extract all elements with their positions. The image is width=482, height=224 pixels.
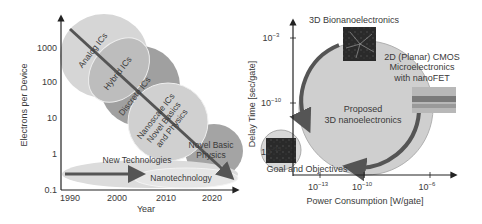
x-tick-1e-13: 10−13 [308,181,329,192]
y-tick-1000: 1000 [37,43,57,53]
label-proposed-line2: 3D nanoelectronics [324,115,402,125]
label-physics: Physics [196,150,225,160]
label-goal-and-objectives: Goal and Objectives [266,164,348,174]
y-tick-0-1: 0.1 [44,185,57,195]
label-cmos-line2: Microelectronics [389,62,455,72]
cmos-image-band [412,96,456,102]
label-cmos-line3: with nanoFET [393,73,450,83]
label-3d-bionanoelectronics: 3D Bionanoelectronics [309,15,400,25]
y-tick-100: 100 [42,77,57,87]
figure-canvas: 1000 100 10 1 0.1 1990 2000 2010 2020 El… [0,0,482,224]
y-tick-10: 10 [47,113,57,123]
y-tick-1e-10: 10−10 [261,97,282,108]
label-cmos-line1: 2D (Planar) CMOS [384,52,460,62]
x-tick-1e-10: 10−10 [352,181,373,192]
x-axis-label: Year [137,204,155,214]
y-axis-label: Electrons per Device [19,63,29,146]
right-x-axis-label: Power Consumption [W/gate] [306,196,423,206]
y-tick-1e-3: 10−3 [263,32,281,43]
x-tick-1e-6: 10−6 [419,181,437,192]
label-proposed-line1: Proposed [344,104,383,114]
label-nanotechnology: Nanotechnology [150,173,212,183]
label-new-technologies: New Technologies [103,155,172,165]
label-novel-basic: Novel Basic [189,140,235,150]
right-y-axis-label: Delay Time [sec/gate] [247,61,257,148]
x-tick-2010: 2010 [156,193,176,203]
right-panel: 10−3 10−10 10−15 10−13 10−10 10−6 Delay … [247,15,460,206]
left-panel: 1000 100 10 1 0.1 1990 2000 2010 2020 El… [19,14,243,214]
y-tick-1: 1 [52,149,57,159]
cmos-image-band-2 [412,104,456,108]
x-tick-1990: 1990 [60,193,80,203]
x-tick-2020: 2020 [202,193,222,203]
x-tick-2000: 2000 [107,193,127,203]
